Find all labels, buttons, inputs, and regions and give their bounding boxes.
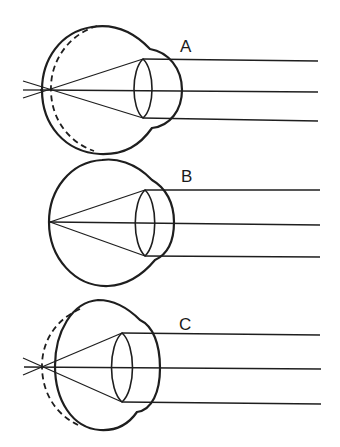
ray-mid-a bbox=[40, 90, 318, 92]
panel-a: A bbox=[23, 26, 318, 154]
converge-top-b bbox=[50, 190, 145, 222]
ray-top-c bbox=[122, 333, 320, 335]
converge-bottom-c bbox=[23, 358, 122, 402]
label-b: B bbox=[181, 167, 192, 186]
panel-b: B bbox=[49, 160, 320, 286]
eyeball-outline-c bbox=[55, 300, 160, 430]
ray-top-a bbox=[143, 59, 318, 61]
converge-top-a bbox=[23, 59, 143, 98]
ray-mid-c bbox=[24, 367, 321, 369]
converge-bottom-a bbox=[23, 81, 143, 118]
ray-mid-b bbox=[50, 222, 320, 225]
ray-bottom-b bbox=[145, 256, 320, 257]
converge-top-c bbox=[23, 333, 122, 375]
lens-a bbox=[134, 59, 152, 118]
converge-bottom-b bbox=[50, 222, 145, 256]
label-a: A bbox=[180, 37, 192, 56]
eye-refraction-diagram: A B C bbox=[0, 0, 340, 447]
label-c: C bbox=[179, 315, 191, 334]
panel-c: C bbox=[23, 300, 321, 430]
